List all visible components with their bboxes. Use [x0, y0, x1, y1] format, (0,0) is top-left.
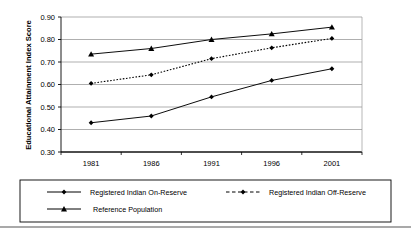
x-tick-label: 1986 [143, 159, 160, 168]
x-tick-label: 1996 [263, 159, 280, 168]
educational-attainment-line-chart: Educational Attainment Index Score 0.300… [0, 0, 411, 230]
y-tick-label: 0.50 [40, 103, 55, 112]
x-tick-label: 1981 [83, 159, 100, 168]
y-axis-title-text: Educational Attainment Index Score [24, 20, 33, 150]
y-tick-label: 0.60 [40, 80, 55, 89]
legend-label: Registered Indian On-Reserve [90, 188, 187, 197]
y-tick-label: 0.30 [40, 148, 55, 157]
x-tick-label: 1991 [203, 159, 220, 168]
legend-label: Reference Population [93, 205, 162, 214]
x-tick-label: 2001 [324, 159, 341, 168]
y-tick-label: 0.70 [40, 58, 55, 67]
y-tick-label: 0.90 [40, 13, 55, 22]
chart-figure: Educational Attainment Index Score 0.300… [0, 0, 411, 230]
y-tick-label: 0.40 [40, 125, 55, 134]
y-tick-label: 0.80 [40, 35, 55, 44]
legend-label: Registered Indian Off-Reserve [269, 188, 366, 197]
legend-box [20, 180, 391, 222]
y-axis-title: Educational Attainment Index Score [24, 20, 33, 150]
